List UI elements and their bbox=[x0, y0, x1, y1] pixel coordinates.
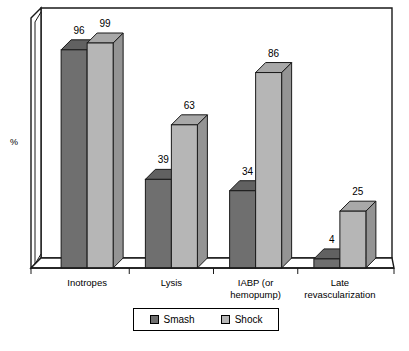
bar-value-label: 99 bbox=[78, 19, 132, 29]
bar-side-face bbox=[197, 115, 207, 268]
bar-value-label: 34 bbox=[221, 167, 275, 177]
bar-front-face bbox=[87, 43, 113, 268]
bar-shock-0[interactable] bbox=[87, 33, 123, 268]
bar-side-face bbox=[282, 63, 292, 268]
bar-front-face bbox=[230, 191, 256, 268]
bar-value-label: 25 bbox=[331, 187, 385, 197]
legend-entry-smash[interactable]: Smash bbox=[150, 315, 195, 325]
bar-front-face bbox=[171, 125, 197, 268]
legend-swatch-icon bbox=[150, 315, 159, 324]
bar-value-label: 39 bbox=[136, 155, 190, 165]
category-label-3: Late revascularization bbox=[290, 277, 390, 300]
legend-swatch-icon bbox=[221, 315, 230, 324]
legend-entry-shock[interactable]: Shock bbox=[221, 315, 263, 325]
bar-front-face bbox=[61, 50, 87, 268]
y-axis-unit-label: % bbox=[10, 138, 18, 147]
bar-value-label: 86 bbox=[247, 49, 301, 59]
legend-label: Smash bbox=[164, 315, 195, 325]
bar-chart-figure: % 969939633486425 InotropesLysisIABP (or… bbox=[0, 0, 409, 351]
bar-value-label: 63 bbox=[162, 101, 216, 111]
bar-shock-2[interactable] bbox=[256, 63, 292, 268]
chart-legend: SmashShock bbox=[133, 308, 279, 331]
bar-front-face bbox=[314, 259, 340, 268]
bar-side-face bbox=[113, 33, 123, 268]
plot-left-wall bbox=[31, 8, 41, 268]
bar-shock-1[interactable] bbox=[171, 115, 207, 268]
legend-label: Shock bbox=[235, 315, 263, 325]
bar-side-face bbox=[366, 201, 376, 268]
bar-value-label: 4 bbox=[305, 235, 359, 245]
bar-front-face bbox=[145, 179, 171, 268]
